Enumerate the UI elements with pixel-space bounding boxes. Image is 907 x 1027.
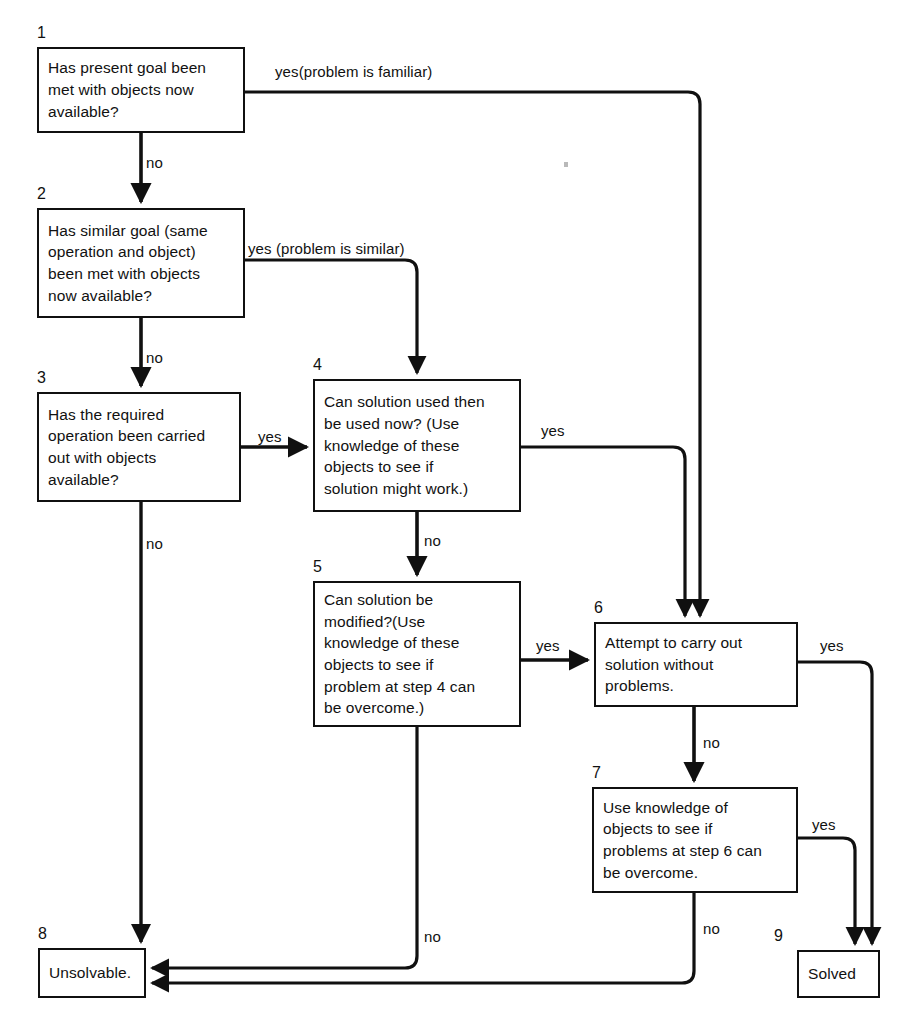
- edge-label-7-yes: yes: [812, 816, 836, 833]
- edge-label-3-no: no: [146, 535, 163, 552]
- edge-label-6-no: no: [703, 734, 720, 751]
- node-number-2: 2: [37, 185, 46, 203]
- node-number-8: 8: [38, 925, 47, 943]
- node-box-6[interactable]: Attempt to carry out solution without pr…: [594, 622, 798, 707]
- node-text-8: Unsolvable.: [40, 962, 140, 984]
- flowchart-canvas: 1 Has present goal been met with objects…: [0, 0, 907, 1027]
- edge-label-6-yes: yes: [820, 637, 844, 654]
- edge-2-to-4-yes: [245, 260, 417, 373]
- node-number-3: 3: [37, 369, 46, 387]
- edge-label-3-yes: yes: [258, 428, 282, 445]
- scan-artifact: [564, 162, 568, 167]
- node-number-7: 7: [592, 764, 601, 782]
- node-box-4[interactable]: Can solution used then be used now? (Use…: [313, 379, 521, 512]
- edge-label-4-no: no: [424, 532, 441, 549]
- edge-label-1-no: no: [146, 154, 163, 171]
- node-box-5[interactable]: Can solution be modified?(Use knowledge …: [313, 581, 521, 727]
- edge-label-5-no: no: [424, 928, 441, 945]
- node-number-9: 9: [774, 927, 783, 945]
- edge-label-7-no: no: [703, 920, 720, 937]
- edge-6-to-9-yes: [798, 662, 872, 944]
- edge-7-to-9-yes: [798, 838, 855, 944]
- node-text-3: Has the required operation been carried …: [39, 404, 214, 491]
- edge-label-2-no: no: [146, 349, 163, 366]
- node-text-2: Has similar goal (same operation and obj…: [39, 220, 217, 307]
- node-number-4: 4: [313, 356, 322, 374]
- node-number-5: 5: [313, 558, 322, 576]
- node-text-1: Has present goal been met with objects n…: [39, 57, 215, 122]
- node-box-1[interactable]: Has present goal been met with objects n…: [37, 47, 245, 133]
- edge-5-to-8-no: [152, 727, 417, 968]
- edge-4-to-6-yes: [521, 447, 685, 616]
- node-number-1: 1: [37, 24, 46, 42]
- edge-label-2-yes: yes (problem is similar): [248, 240, 405, 257]
- node-text-9: Solved: [799, 963, 865, 985]
- edge-1-to-6-yes: [245, 92, 700, 616]
- edge-label-5-yes: yes: [536, 637, 560, 654]
- edge-label-4-yes: yes: [541, 422, 565, 439]
- edge-label-1-yes: yes(problem is familiar): [275, 63, 432, 80]
- node-number-6: 6: [594, 599, 603, 617]
- node-box-7[interactable]: Use knowledge of objects to see if probl…: [592, 787, 798, 893]
- node-box-2[interactable]: Has similar goal (same operation and obj…: [37, 208, 245, 318]
- node-box-8[interactable]: Unsolvable.: [38, 948, 146, 998]
- node-box-9[interactable]: Solved: [797, 950, 880, 998]
- node-text-5: Can solution be modified?(Use knowledge …: [315, 589, 484, 719]
- node-text-4: Can solution used then be used now? (Use…: [315, 391, 494, 499]
- node-text-6: Attempt to carry out solution without pr…: [596, 632, 751, 697]
- node-text-7: Use knowledge of objects to see if probl…: [594, 797, 771, 884]
- node-box-3[interactable]: Has the required operation been carried …: [37, 392, 241, 502]
